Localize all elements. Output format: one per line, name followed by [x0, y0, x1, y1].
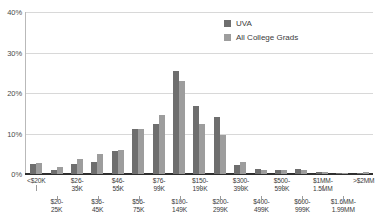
x-label-separator [200, 185, 201, 191]
bar-group [46, 12, 66, 174]
bar [57, 167, 63, 174]
bar-group [312, 12, 332, 174]
x-tick-label: <$20K [13, 177, 59, 185]
y-tick-label-20%: 20% [0, 89, 22, 98]
x-label-separator [77, 185, 78, 191]
x-label-separator [241, 185, 242, 191]
legend-swatch-icon-all-college-grads [224, 34, 231, 41]
x-label-separator [323, 185, 324, 191]
x-label-separator [57, 196, 58, 202]
bar-group [67, 12, 87, 174]
bar [322, 172, 328, 174]
bar-group [26, 12, 46, 174]
bar [281, 170, 287, 174]
bar [77, 159, 83, 174]
x-label-separator [261, 196, 262, 202]
bar-group [189, 12, 209, 174]
bar [342, 173, 348, 174]
bar [138, 129, 144, 174]
bar [220, 135, 226, 174]
bar [240, 162, 246, 174]
x-label-separator [159, 185, 160, 191]
bar [363, 172, 369, 174]
x-label-separator [343, 196, 344, 202]
bar-group [108, 12, 128, 174]
x-label-separator [282, 185, 283, 191]
x-label-separator [220, 196, 221, 202]
bar [301, 170, 307, 174]
y-tick-label-10%: 10% [0, 130, 22, 139]
legend-swatch-icon-uva [224, 20, 231, 27]
y-tick-label-40%: 40% [0, 8, 22, 17]
x-axis-labels: <$20K$26-35K$46-55K$76-99K$150-199K$300-… [26, 176, 373, 221]
bar [199, 124, 205, 174]
legend-label-all-college-grads: All College Grads [236, 33, 298, 42]
y-tick-label-30%: 30% [0, 49, 22, 58]
bar-group [353, 12, 373, 174]
bar-group [87, 12, 107, 174]
bar-group [128, 12, 148, 174]
bar [36, 163, 42, 174]
x-label-separator [302, 196, 303, 202]
bar-group [169, 12, 189, 174]
bars-layer [26, 12, 373, 174]
x-label-separator [118, 185, 119, 191]
bar-group [332, 12, 352, 174]
chart-legend: UVA All College Grads [224, 17, 298, 45]
bar [179, 81, 185, 174]
x-label-separator [139, 196, 140, 202]
bar-group [148, 12, 168, 174]
x-label-separator [98, 196, 99, 202]
x-label-separator [180, 196, 181, 202]
income-distribution-bar-chart: 0%10%20%30%40% UVA All College Grads <$2… [0, 0, 378, 221]
bar [159, 115, 165, 174]
bar [118, 150, 124, 174]
bar [97, 154, 103, 174]
legend-item-all-college-grads: All College Grads [224, 31, 298, 43]
legend-label-uva: UVA [236, 19, 252, 28]
legend-item-uva: UVA [224, 17, 298, 29]
x-tick-label: >$2MM [341, 177, 378, 185]
bar [261, 170, 267, 174]
x-label-separator [36, 185, 37, 191]
